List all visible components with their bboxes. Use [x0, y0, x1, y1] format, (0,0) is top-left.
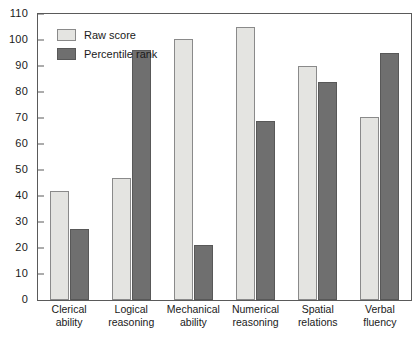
- bar-group: [287, 14, 349, 300]
- y-axis-tick-label: 20: [15, 241, 28, 253]
- legend-item-raw-score: Raw score: [57, 26, 187, 43]
- legend-swatch-percentile-rank: [57, 48, 76, 60]
- y-axis-tick-label: 60: [15, 137, 28, 149]
- x-axis-tick-label: Clericalability: [38, 303, 100, 329]
- bar-percentile-rank: [380, 53, 399, 300]
- x-axis-tick-label: Verbalfluency: [349, 303, 411, 329]
- legend-label-percentile-rank: Percentile rank: [84, 48, 157, 60]
- chart-legend: Raw score Percentile rank: [57, 26, 187, 64]
- bar-group: [349, 14, 411, 300]
- bar-raw-score: [236, 27, 255, 300]
- legend-label-raw-score: Raw score: [84, 29, 136, 41]
- legend-item-percentile-rank: Percentile rank: [57, 45, 187, 62]
- y-axis-tick-label: 80: [15, 85, 28, 97]
- bar-chart: 0102030405060708090100110 Clericalabilit…: [0, 0, 419, 343]
- x-axis: ClericalabilityLogicalreasoningMechanica…: [38, 303, 411, 343]
- bar-percentile-rank: [132, 50, 151, 300]
- bar-raw-score: [360, 117, 379, 300]
- y-axis-tick-label: 10: [15, 267, 28, 279]
- x-axis-tick-label: Numericalreasoning: [225, 303, 287, 329]
- y-axis-tick-label: 0: [22, 293, 28, 305]
- y-axis: 0102030405060708090100110: [0, 13, 33, 301]
- bar-raw-score: [298, 66, 317, 300]
- bar-raw-score: [112, 178, 131, 300]
- x-axis-tick-label: Logicalreasoning: [100, 303, 162, 329]
- x-axis-tick-label: Spatialrelations: [287, 303, 349, 329]
- y-axis-tick-label: 90: [15, 59, 28, 71]
- y-axis-tick-label: 110: [10, 7, 28, 19]
- bar-percentile-rank: [318, 82, 337, 300]
- y-axis-tick-label: 40: [15, 189, 28, 201]
- bar-raw-score: [50, 191, 69, 300]
- bar-group: [225, 14, 287, 300]
- y-axis-tick-label: 100: [9, 33, 28, 45]
- bar-percentile-rank: [194, 245, 213, 300]
- x-axis-tick-label: Mechanicalability: [162, 303, 224, 329]
- y-axis-tick-label: 50: [15, 163, 28, 175]
- y-axis-tick-label: 30: [15, 215, 28, 227]
- y-axis-tick-label: 70: [15, 111, 28, 123]
- bar-percentile-rank: [70, 229, 89, 301]
- bar-raw-score: [174, 39, 193, 300]
- legend-swatch-raw-score: [57, 29, 76, 41]
- bar-percentile-rank: [256, 121, 275, 300]
